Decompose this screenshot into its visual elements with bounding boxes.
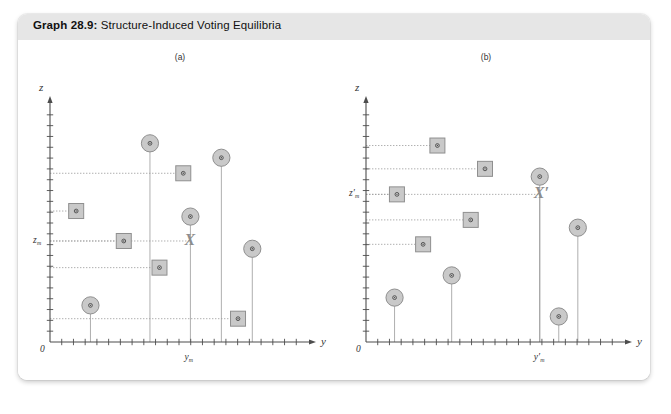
panel-a: (a) zy0zmymX (18, 40, 334, 380)
square-marker (478, 161, 493, 176)
square-marker (463, 212, 478, 227)
panel-a-x-axis-label: y (321, 336, 326, 347)
square-marker (231, 311, 246, 326)
square-marker (430, 138, 445, 153)
square-marker (416, 237, 431, 252)
panel-a-y-threshold-label: ym (184, 353, 192, 363)
panel-a-svg (18, 40, 334, 380)
circle-marker (443, 267, 460, 284)
square-marker (69, 204, 84, 219)
panel-a-origin-label: 0 (40, 345, 45, 355)
square-marker (152, 260, 167, 275)
circle-marker (244, 240, 261, 257)
panel-b-z-threshold-label: z′m (349, 189, 359, 199)
panel-a-plot: zy0zmymX (18, 40, 334, 380)
graph-card: Graph 28.9: Structure-Induced Voting Equ… (18, 14, 650, 380)
circle-marker (531, 168, 548, 185)
panel-b-origin-label: 0 (356, 345, 361, 355)
panel-b-svg (334, 40, 650, 380)
circle-marker (386, 289, 403, 306)
guide-lines (50, 173, 238, 318)
circle-marker (82, 297, 99, 314)
panel-b-y-axis-label: z (355, 82, 359, 93)
reference-lines (50, 241, 190, 342)
axes (363, 96, 632, 345)
square-marker (389, 187, 404, 202)
circle-marker (550, 308, 567, 325)
graph-number: Graph 28.9: (33, 19, 97, 31)
card-body: (a) zy0zmymX (b) zy0z′my′mX′ (18, 40, 650, 380)
circle-marker (141, 135, 158, 152)
panel-a-z-threshold-label: zm (33, 236, 41, 246)
circle-marker (569, 219, 586, 236)
graph-title: Structure-Induced Voting Equilibria (97, 19, 281, 31)
card-header: Graph 28.9: Structure-Induced Voting Equ… (18, 14, 650, 41)
panel-a-y-axis-label: z (39, 82, 43, 93)
screenshot-root: Graph 28.9: Structure-Induced Voting Equ… (0, 0, 671, 414)
square-marker (116, 233, 131, 248)
panel-b: (b) zy0z′my′mX′ (334, 40, 650, 380)
circle-marker (213, 149, 230, 166)
panel-b-plot: zy0z′my′mX′ (334, 40, 650, 380)
guide-lines (366, 146, 485, 245)
panel-b-x-axis-label: y (637, 336, 642, 347)
circle-marker (182, 208, 199, 225)
card-header-text: Graph 28.9: Structure-Induced Voting Equ… (33, 19, 281, 31)
panel-b-y-threshold-label: y′m (534, 353, 545, 363)
panel-a-status-quo-marker: X (184, 232, 195, 248)
square-marker (176, 166, 191, 181)
panel-b-status-quo-marker: X′ (534, 185, 549, 201)
